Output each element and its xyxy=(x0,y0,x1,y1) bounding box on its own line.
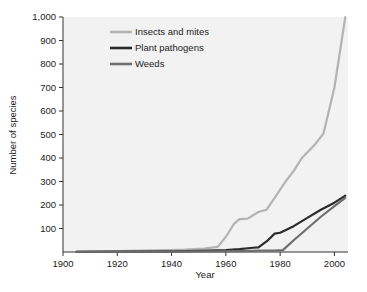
y-tick-label: 400 xyxy=(40,152,56,163)
y-tick-label: 800 xyxy=(40,58,56,69)
y-axis-title: Number of species xyxy=(7,95,18,174)
legend-label: Weeds xyxy=(135,58,165,69)
y-tick-label: 700 xyxy=(40,82,56,93)
chart-figure: 1002003004005006007008009001,000 1900192… xyxy=(0,0,367,292)
y-tick-label: 100 xyxy=(40,223,56,234)
x-tick-label: 1920 xyxy=(107,258,128,269)
x-tick-label: 1940 xyxy=(161,258,182,269)
y-tick-label: 600 xyxy=(40,105,56,116)
x-tick-label: 1980 xyxy=(270,258,291,269)
y-tick-label: 900 xyxy=(40,35,56,46)
plot-area-background xyxy=(63,17,348,252)
x-tick-label: 2000 xyxy=(324,258,345,269)
y-tick-label: 1,000 xyxy=(32,11,56,22)
y-tick-label: 300 xyxy=(40,176,56,187)
legend-label: Plant pathogens xyxy=(135,42,204,53)
x-tick-label: 1960 xyxy=(215,258,236,269)
line-chart: 1002003004005006007008009001,000 1900192… xyxy=(0,0,367,292)
legend-label: Insects and mites xyxy=(135,26,209,37)
x-tick-label: 1900 xyxy=(52,258,73,269)
y-tick-label: 200 xyxy=(40,199,56,210)
y-tick-label: 500 xyxy=(40,129,56,140)
x-axis-title: Year xyxy=(195,269,214,280)
